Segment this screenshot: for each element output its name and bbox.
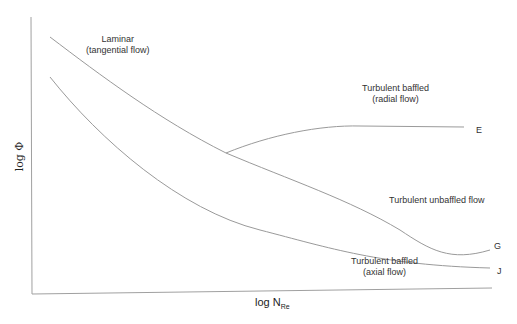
label-axial-line1: Turbulent baffled	[351, 256, 418, 267]
curve-laminar-unbaffled-G	[50, 37, 490, 255]
y-axis-label: log Φ	[13, 132, 26, 182]
endpoint-E: E	[476, 125, 482, 135]
endpoint-J: J	[497, 266, 502, 276]
label-radial: Turbulent baffled (radial flow)	[362, 83, 429, 105]
x-axis-label-sub: Re	[281, 303, 290, 310]
label-axial: Turbulent baffled (axial flow)	[351, 256, 418, 278]
label-laminar-line1: Laminar	[86, 34, 150, 45]
label-radial-line1: Turbulent baffled	[362, 83, 429, 94]
label-laminar-line2: (tangential flow)	[86, 45, 150, 56]
label-radial-line2: (radial flow)	[362, 94, 429, 105]
label-laminar: Laminar (tangential flow)	[86, 34, 150, 56]
curve-radial-E	[226, 126, 464, 153]
x-axis-label: log NRe	[255, 296, 290, 310]
y-axis	[31, 17, 32, 294]
label-unbaffled: Turbulent unbaffled flow	[389, 195, 485, 206]
x-axis	[32, 288, 492, 294]
x-axis-label-main: log N	[255, 296, 281, 308]
diagram-canvas	[0, 0, 517, 324]
label-axial-line2: (axial flow)	[351, 267, 418, 278]
endpoint-G: G	[494, 241, 501, 251]
curve-axial-J	[50, 77, 490, 268]
